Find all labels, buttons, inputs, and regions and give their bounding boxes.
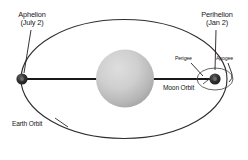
label-perihelion-date: (Jan 2)	[192, 19, 242, 27]
label-moon-orbit: Moon Orbit	[163, 84, 194, 91]
leader-line-perihelion	[215, 30, 216, 70]
earth-core-perihelion	[213, 77, 217, 81]
leader-line-perigee	[191, 63, 203, 76]
label-aphelion: Aphelion (July 2)	[10, 11, 54, 28]
sun-body	[96, 50, 154, 108]
leader-line-earth-orbit	[55, 118, 68, 127]
leader-line-aphelion	[24, 30, 31, 73]
earth-core-aphelion	[20, 77, 24, 81]
orbit-diagram: Aphelion (July 2) Perihelion (Jan 2) Per…	[0, 0, 248, 160]
label-earth-orbit: Earth Orbit	[12, 120, 42, 127]
label-perigee: Perigee	[175, 56, 192, 62]
label-perihelion: Perihelion (Jan 2)	[192, 11, 242, 28]
label-apogee: Apogee	[216, 56, 233, 62]
label-aphelion-date: (July 2)	[10, 19, 54, 27]
